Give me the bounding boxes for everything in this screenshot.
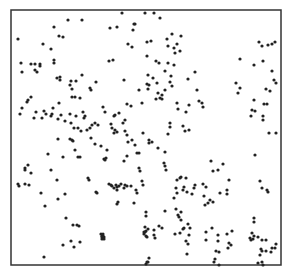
data-point [66,18,69,21]
data-point [152,228,155,231]
data-point [133,143,136,146]
data-point [35,70,38,73]
data-point [169,74,172,77]
data-point [112,131,115,134]
data-point [176,107,179,110]
data-point [80,18,83,21]
data-point [170,84,173,87]
data-point [172,196,175,199]
data-point [253,109,256,112]
data-point [108,26,111,29]
data-point [274,131,277,134]
data-point [69,79,72,82]
data-point [38,64,41,67]
data-point [175,101,178,104]
data-point [93,121,96,124]
data-point [272,78,275,81]
data-point [166,132,169,135]
data-point [200,101,203,104]
data-point [81,110,84,113]
data-point [204,230,207,233]
data-point [146,73,149,76]
data-point [204,185,207,188]
data-point [147,256,150,259]
data-point [58,75,61,78]
data-point [115,202,118,205]
data-point [184,110,187,113]
data-point [120,11,123,14]
data-point [87,178,90,181]
data-points [16,11,277,266]
data-point [63,119,66,122]
data-point [113,113,116,116]
data-point [93,142,96,145]
data-point [78,155,81,158]
data-point [252,220,255,223]
data-point [153,236,156,239]
data-point [112,186,115,189]
data-point [130,45,133,48]
data-point [166,44,169,47]
data-point [151,76,154,79]
data-point [212,260,215,263]
data-point [203,203,206,206]
data-point [218,191,221,194]
data-point [64,216,67,219]
data-point [19,61,22,64]
data-point [249,114,252,117]
data-point [78,240,81,243]
data-point [83,114,86,117]
data-point [101,232,104,235]
data-point [261,114,264,117]
data-point [213,257,216,260]
data-point [49,168,52,171]
data-point [168,121,171,124]
data-point [268,89,271,92]
data-point [121,121,124,124]
data-point [137,166,140,169]
data-point [144,214,147,217]
data-point [99,144,102,147]
data-point [17,184,20,187]
data-point [190,192,193,195]
data-point [152,233,155,236]
data-point [193,70,196,73]
data-point [88,126,91,129]
data-point [187,233,190,236]
data-point [266,43,269,46]
data-point [126,42,129,45]
data-point [44,112,47,115]
data-point [175,42,178,45]
data-point [166,61,169,64]
data-point [107,59,110,62]
data-point [160,226,163,229]
data-point [29,95,32,98]
data-point [168,125,171,128]
data-point [135,151,138,154]
data-point [230,229,233,232]
data-point [186,222,189,225]
data-point [137,88,140,91]
data-point [73,148,76,151]
data-point [260,186,263,189]
data-point [143,230,146,233]
data-point [29,62,32,65]
data-point [173,232,176,235]
data-point [75,223,78,226]
data-point [225,188,228,191]
data-point [46,152,49,155]
data-point [40,116,43,119]
data-point [145,54,148,57]
data-point [141,131,144,134]
data-point [178,176,181,179]
data-point [143,11,146,14]
data-point [164,168,167,171]
data-point [260,238,263,241]
data-point [181,188,184,191]
data-point [96,123,99,126]
data-point [217,250,220,253]
data-point [221,162,224,165]
data-point [51,106,54,109]
data-point [52,58,55,61]
data-point [85,128,88,131]
